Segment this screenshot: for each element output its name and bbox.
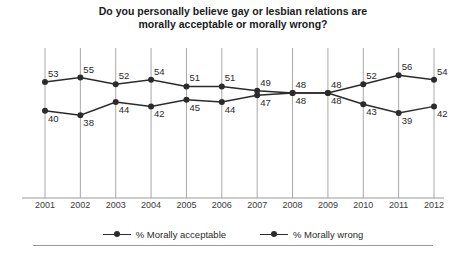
- legend-label-acceptable: % Morally acceptable: [136, 229, 226, 240]
- x-tick-label-2006: 2006: [205, 200, 239, 210]
- value-label: 53: [48, 68, 59, 79]
- value-label: 38: [83, 117, 94, 128]
- x-tick-label-2002: 2002: [63, 200, 97, 210]
- x-tick-label-2011: 2011: [382, 200, 416, 210]
- x-tick-label-2005: 2005: [169, 200, 203, 210]
- data-point-marker: [183, 83, 189, 89]
- value-label: 48: [331, 79, 342, 90]
- chart-legend: % Morally acceptable % Morally wrong: [0, 226, 466, 242]
- x-tick-label-2010: 2010: [346, 200, 380, 210]
- value-label: 42: [154, 108, 165, 119]
- data-point-marker: [42, 79, 48, 85]
- data-point-marker: [360, 81, 366, 87]
- x-tick-label-2001: 2001: [28, 200, 62, 210]
- data-point-marker: [431, 77, 437, 83]
- value-label: 54: [154, 66, 165, 77]
- value-label: 48: [331, 95, 342, 106]
- x-tick-label-2004: 2004: [134, 200, 168, 210]
- value-label: 51: [225, 72, 236, 83]
- legend-entry-morally-acceptable: % Morally acceptable: [103, 229, 226, 240]
- chart-title-line-2: morally acceptable or morally wrong?: [33, 18, 433, 31]
- data-point-marker: [77, 75, 83, 81]
- x-tick-label-2009: 2009: [311, 200, 345, 210]
- chart-figure: Do you personally believe gay or lesbian…: [0, 0, 466, 254]
- value-label: 56: [402, 61, 413, 72]
- value-label: 49: [260, 77, 271, 88]
- line-chart-svg: [0, 40, 466, 205]
- legend-marker-icon-wrong: [260, 230, 288, 239]
- legend-entry-morally-wrong: % Morally wrong: [260, 229, 363, 240]
- value-label: 51: [189, 72, 200, 83]
- value-label: 42: [437, 108, 448, 119]
- value-label: 54: [437, 66, 448, 77]
- data-point-marker: [396, 72, 402, 78]
- chart-title: Do you personally believe gay or lesbian…: [33, 5, 433, 31]
- x-tick-label-2003: 2003: [99, 200, 133, 210]
- chart-title-line-1: Do you personally believe gay or lesbian…: [33, 5, 433, 18]
- value-label: 40: [48, 113, 59, 124]
- value-label: 44: [225, 104, 236, 115]
- value-label: 48: [296, 79, 307, 90]
- legend-label-wrong: % Morally wrong: [293, 229, 363, 240]
- value-label: 47: [260, 97, 271, 108]
- data-point-marker: [254, 88, 260, 94]
- value-label: 52: [366, 70, 377, 81]
- bottom-divider: [33, 245, 433, 246]
- value-label: 39: [402, 115, 413, 126]
- value-label: 44: [119, 104, 130, 115]
- legend-marker-icon-acceptable: [103, 230, 131, 239]
- data-point-marker: [219, 83, 225, 89]
- plot-area: 4038444245444748485256545355525451514948…: [0, 40, 466, 205]
- value-label: 52: [119, 70, 130, 81]
- value-label: 43: [366, 106, 377, 117]
- data-point-marker: [148, 77, 154, 83]
- x-axis-labels: 2001200220032004200520062007200820092010…: [0, 200, 466, 216]
- x-tick-label-2007: 2007: [240, 200, 274, 210]
- x-tick-label-2012: 2012: [417, 200, 451, 210]
- value-label: 48: [296, 95, 307, 106]
- x-tick-label-2008: 2008: [276, 200, 310, 210]
- data-point-marker: [113, 81, 119, 87]
- value-label: 55: [83, 64, 94, 75]
- value-label: 45: [189, 102, 200, 113]
- series-markers-group: [42, 72, 437, 118]
